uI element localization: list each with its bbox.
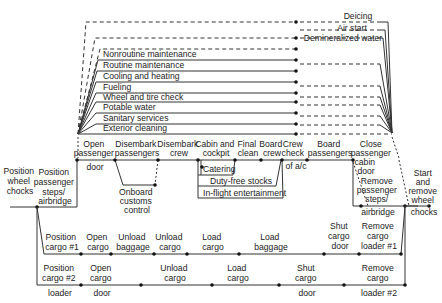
label-exterior-cleaning: Exterior cleaning <box>103 123 167 133</box>
label-position-cargo-2: Position cargo #2 loader <box>42 263 78 298</box>
passenger-path: Position wheel chocks Position passenger… <box>4 139 440 217</box>
label-wheel-tire-check: Wheel and tire check <box>103 92 184 102</box>
label-open-cargo-1: Open cargo <box>86 232 109 252</box>
label-onboard-customs: Onboard customs control <box>119 187 155 215</box>
label-load-cargo-2: Load cargo <box>227 263 249 283</box>
label-position-cargo-1: Position cargo #1 <box>45 232 79 252</box>
label-unload-cargo-1: Unload cargo <box>155 232 185 252</box>
label-disembark-crew: Disembark crew <box>157 139 200 158</box>
label-unload-baggage: Unload baggage <box>116 232 150 252</box>
label-unload-cargo-2: Unload cargo <box>160 263 190 283</box>
servicing-fan: Deicing Air start Demineralized water No… <box>78 11 392 136</box>
label-load-baggage: Load baggage <box>254 232 288 252</box>
label-demineralized-water: Demineralized water <box>304 33 382 43</box>
label-inflight-entertainment: In-flight entertainment <box>203 188 287 198</box>
label-duty-free: Duty-free stocks <box>210 176 272 186</box>
label-routine-maintenance: Routine maintenance <box>103 60 184 70</box>
label-air-start: Air start <box>337 23 367 33</box>
label-deicing: Deicing <box>344 11 373 21</box>
label-disembark-passengers: Disembark passengers <box>115 139 159 158</box>
label-remove-cargo-loader-1: Remove cargo loader #1 <box>361 221 397 251</box>
label-sanitary-services: Sanitary services <box>103 113 168 123</box>
label-final-clean: Final clean <box>237 139 258 158</box>
label-remove-cargo-loader-2: Remove cargo loader #2 <box>361 263 397 298</box>
label-crew-check: Crew check of a/c <box>282 139 308 171</box>
label-remove-steps: Remove passenger steps/ airbridge <box>357 176 400 217</box>
label-start-remove-chocks: Start and remove wheel chocks <box>408 168 439 217</box>
label-close-cabin-door: Close passenger cabin door <box>351 139 394 176</box>
label-potable-water: Potable water <box>103 102 156 112</box>
turnaround-network-diagram: Deicing Air start Demineralized water No… <box>0 0 442 303</box>
label-position-steps: Position passenger steps/ airbridge <box>34 167 77 206</box>
label-fueling: Fueling <box>103 82 131 92</box>
label-nonroutine-maintenance: Nonroutine maintenance <box>103 49 197 59</box>
cargo-2-path: Position cargo #2 loader Open cargo door… <box>37 206 407 298</box>
label-load-cargo-1: Load cargo <box>202 232 224 252</box>
label-shut-cargo-door-2: Shut cargo door <box>295 263 319 298</box>
label-open-cargo-door-2: Open cargo door <box>90 263 114 298</box>
label-cooling-heating: Cooling and heating <box>103 71 180 81</box>
label-board-passengers: Board passengers <box>308 139 352 158</box>
cargo-1-path: Position cargo #1 Open cargo Unload bagg… <box>37 206 405 256</box>
label-shut-cargo-door-1: Shut cargo door <box>328 221 352 251</box>
label-cabin-cockpit: Cabin and cockpit <box>195 139 237 158</box>
label-open-passenger-door: Open passenger door <box>74 139 117 172</box>
label-catering: Catering <box>203 164 236 174</box>
label-position-wheel-chocks: Position wheel chocks <box>4 166 37 196</box>
